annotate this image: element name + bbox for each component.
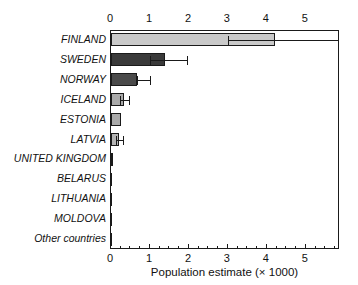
bar	[111, 153, 113, 166]
axis-tick-label: 1	[139, 252, 159, 264]
axis-tick	[207, 246, 208, 249]
error-bar-cap	[137, 76, 138, 85]
axis-tick-label: 3	[217, 252, 237, 264]
x-axis-title: Population estimate (× 1000)	[110, 266, 339, 278]
error-bar-cap	[228, 36, 229, 45]
axis-tick-label: 4	[256, 252, 276, 264]
axis-tick	[110, 244, 111, 249]
axis-tick	[246, 246, 247, 249]
bar	[111, 173, 112, 186]
axis-tick-label: 3	[217, 12, 237, 24]
chart-figure: 012345 FINLANDSWEDENNORWAYICELANDESTONIA…	[0, 0, 358, 285]
error-bar-cap	[116, 136, 117, 145]
axis-tick-label: 2	[178, 252, 198, 264]
bars-layer	[111, 31, 338, 248]
axis-tick	[188, 244, 189, 249]
bar	[111, 193, 112, 206]
error-bar-cap	[150, 56, 151, 65]
axis-tick-label: 2	[178, 12, 198, 24]
axis-tick	[276, 246, 277, 249]
axis-tick-label: 5	[295, 12, 315, 24]
category-axis-labels: FINLANDSWEDENNORWAYICELANDESTONIALATVIAU…	[0, 30, 106, 249]
axis-tick	[149, 244, 150, 249]
category-label: FINLAND	[0, 34, 106, 45]
error-bar	[137, 80, 150, 81]
error-bar-cap	[150, 76, 151, 85]
axis-tick-label: 1	[139, 12, 159, 24]
axis-tick	[315, 246, 316, 249]
error-bar-cap	[123, 136, 124, 145]
axis-tick	[139, 246, 140, 249]
category-label: NORWAY	[0, 74, 106, 85]
error-bar-cap	[187, 56, 188, 65]
bar	[111, 113, 121, 126]
axis-tick	[324, 246, 325, 249]
axis-tick	[334, 246, 335, 249]
error-bar	[120, 100, 130, 101]
category-label: LATVIA	[0, 134, 106, 145]
bar	[111, 213, 112, 226]
error-bar	[150, 60, 187, 61]
axis-tick	[159, 246, 160, 249]
category-label: ICELAND	[0, 94, 106, 105]
category-label: ESTONIA	[0, 114, 106, 125]
bottom-axis-tick-labels: 012345	[110, 252, 339, 266]
axis-tick	[129, 246, 130, 249]
category-label: Other countries	[0, 233, 106, 244]
axis-tick-label: 4	[256, 12, 276, 24]
top-axis-tick-labels: 012345	[110, 12, 339, 26]
axis-tick	[295, 246, 296, 249]
category-label: MOLDOVA	[0, 213, 106, 224]
axis-tick	[285, 246, 286, 249]
error-bar-cap	[129, 96, 130, 105]
error-bar-cap	[120, 96, 121, 105]
axis-tick	[178, 246, 179, 249]
error-bar	[228, 40, 339, 41]
bar	[111, 73, 137, 86]
category-label: LITHUANIA	[0, 193, 106, 204]
axis-tick	[305, 244, 306, 249]
axis-tick-label: 0	[100, 252, 120, 264]
axis-tick-label: 5	[295, 252, 315, 264]
axis-tick-label: 0	[100, 12, 120, 24]
axis-tick	[120, 246, 121, 249]
category-label: BELARUS	[0, 173, 106, 184]
bar	[111, 233, 112, 246]
category-label: SWEDEN	[0, 54, 106, 65]
axis-tick	[198, 246, 199, 249]
axis-tick	[256, 246, 257, 249]
category-label: UNITED KINGDOM	[0, 153, 106, 164]
axis-tick	[237, 246, 238, 249]
axis-tick	[266, 244, 267, 249]
axis-tick	[217, 246, 218, 249]
axis-tick	[168, 246, 169, 249]
axis-tick	[227, 244, 228, 249]
